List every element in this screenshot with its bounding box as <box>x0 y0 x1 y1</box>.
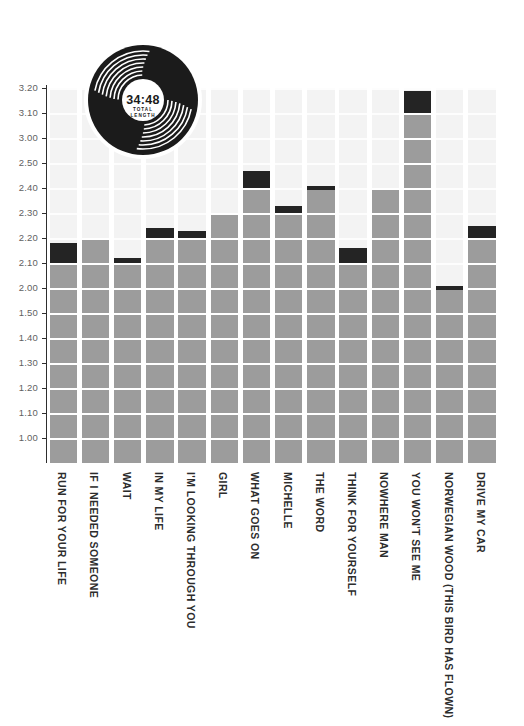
bar-partial-segment-cap <box>50 243 78 263</box>
y-axis-tick <box>42 338 46 339</box>
y-axis-tick-label: 1.30 <box>2 357 38 368</box>
y-axis-tick <box>42 363 46 364</box>
bar-partial-segment-cap <box>275 206 303 214</box>
y-axis-tick <box>42 413 46 414</box>
y-axis-tick <box>42 88 46 89</box>
bar-think-for-yourself <box>339 248 367 463</box>
y-axis-tick <box>42 238 46 239</box>
y-axis-tick-label: 2.10 <box>2 257 38 268</box>
y-axis-tick <box>42 313 46 314</box>
category-label: I'M LOOKING THROUGH YOU <box>185 472 197 629</box>
y-axis-tick-label: 1.50 <box>2 307 38 318</box>
y-axis-tick <box>42 138 46 139</box>
bar-partial-segment-cap <box>404 91 432 114</box>
category-label: YOU WON'T SEE ME <box>410 472 422 581</box>
bar-michelle <box>275 206 303 464</box>
bar-norwegian-wood-this-bird-has-flown <box>436 286 464 464</box>
bar-nowhere-man <box>372 188 400 463</box>
category-label: IN MY LIFE <box>153 472 165 531</box>
total-length-caption-2: LENGTH <box>131 113 156 118</box>
y-axis-tick <box>42 388 46 389</box>
bar-you-won-t-see-me <box>404 91 432 464</box>
y-axis-tick-label: 1.00 <box>2 432 38 443</box>
bar-girl <box>211 213 239 463</box>
y-axis-tick-label: 1.40 <box>2 332 38 343</box>
y-axis-tick-label: 2.50 <box>2 157 38 168</box>
bar-partial-segment-cap <box>307 186 335 190</box>
y-axis-tick-label: 1.20 <box>2 382 38 393</box>
y-axis-tick-label: 1.10 <box>2 407 38 418</box>
category-label: RUN FOR YOUR LIFE <box>56 472 68 585</box>
category-label: GIRL <box>217 472 229 499</box>
y-axis-tick <box>42 163 46 164</box>
y-axis-tick <box>42 113 46 114</box>
category-label: NORWEGIAN WOOD (THIS BIRD HAS FLOWN) <box>443 472 455 718</box>
y-axis-tick-label: 2.30 <box>2 207 38 218</box>
bar-partial-segment-cap <box>178 231 206 239</box>
y-axis-tick-label: 3.10 <box>2 107 38 118</box>
category-label: DRIVE MY CAR <box>475 472 487 553</box>
vinyl-record-icon: 34:48 TOTAL LENGTH <box>82 39 204 161</box>
bar-wait <box>114 258 142 463</box>
y-axis-tick <box>42 438 46 439</box>
bar-in-my-life <box>146 228 174 463</box>
y-axis-tick-label: 3.20 <box>2 82 38 93</box>
category-label: WAIT <box>121 472 133 500</box>
y-axis-tick <box>42 188 46 189</box>
category-label: THINK FOR YOURSELF <box>346 472 358 596</box>
y-axis-tick <box>42 288 46 289</box>
category-label: THE WORD <box>314 472 326 532</box>
y-axis-tick-label: 3.00 <box>2 132 38 143</box>
total-length-value: 34:48 <box>126 93 159 107</box>
bar-partial-segment-cap <box>339 248 367 263</box>
y-axis-tick-label: 2.40 <box>2 182 38 193</box>
y-axis-tick <box>42 263 46 264</box>
bar-partial-segment-cap <box>468 226 496 239</box>
total-length-caption-1: TOTAL <box>133 107 153 112</box>
category-label: MICHELLE <box>282 472 294 529</box>
y-axis-tick-label: 2.20 <box>2 232 38 243</box>
bar-if-i-needed-someone <box>82 238 110 463</box>
bar-partial-segment-cap <box>243 171 271 189</box>
bar-i-m-looking-through-you <box>178 231 206 464</box>
y-axis <box>46 85 48 463</box>
category-label: WHAT GOES ON <box>249 472 261 559</box>
bar-partial-segment-cap <box>436 286 464 290</box>
category-label: NOWHERE MAN <box>378 472 390 558</box>
bar-drive-my-car <box>468 226 496 464</box>
bar-partial-segment-cap <box>114 258 142 263</box>
bar-run-for-your-life <box>50 243 78 463</box>
bar-the-word <box>307 186 335 464</box>
bar-what-goes-on <box>243 171 271 464</box>
y-axis-tick-label: 2.00 <box>2 282 38 293</box>
category-label: IF I NEEDED SOMEONE <box>88 472 100 598</box>
y-axis-tick <box>42 213 46 214</box>
bar-partial-segment-cap <box>146 228 174 238</box>
infographic-canvas: 34:48 TOTAL LENGTH 3.203.103.002.502.402… <box>0 0 524 726</box>
